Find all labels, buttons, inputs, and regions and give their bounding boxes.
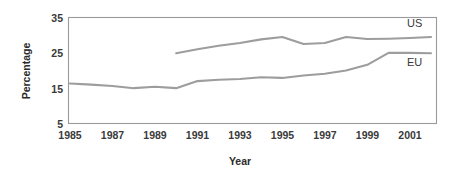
x-tick-label-1993: 1993	[228, 129, 252, 141]
y-tick-label-25: 25	[51, 47, 63, 59]
y-tick-label-15: 15	[51, 83, 63, 95]
plot-area-frame	[69, 18, 437, 124]
x-tick-label-1997: 1997	[313, 129, 337, 141]
x-tick-label-2001: 2001	[398, 129, 422, 141]
series-label-us: US	[407, 17, 422, 29]
series-line-us	[176, 37, 431, 53]
line-chart: 35 25 15 5 1985 1987 1989 1991 1993 1995…	[0, 0, 458, 177]
x-tick-label-1989: 1989	[143, 129, 167, 141]
y-axis-title: Percentage	[20, 43, 32, 100]
x-tick-label-1987: 1987	[101, 129, 125, 141]
x-tick-label-1985: 1985	[58, 129, 82, 141]
x-tick-label-1999: 1999	[356, 129, 380, 141]
series-label-eu: EU	[407, 56, 422, 68]
series-line-eu	[70, 53, 431, 88]
x-tick-label-1995: 1995	[271, 129, 295, 141]
chart-page: 35 25 15 5 1985 1987 1989 1991 1993 1995…	[0, 0, 458, 177]
y-tick-label-35: 35	[51, 12, 63, 24]
x-axis-title: Year	[229, 155, 251, 167]
x-tick-label-1991: 1991	[186, 129, 210, 141]
